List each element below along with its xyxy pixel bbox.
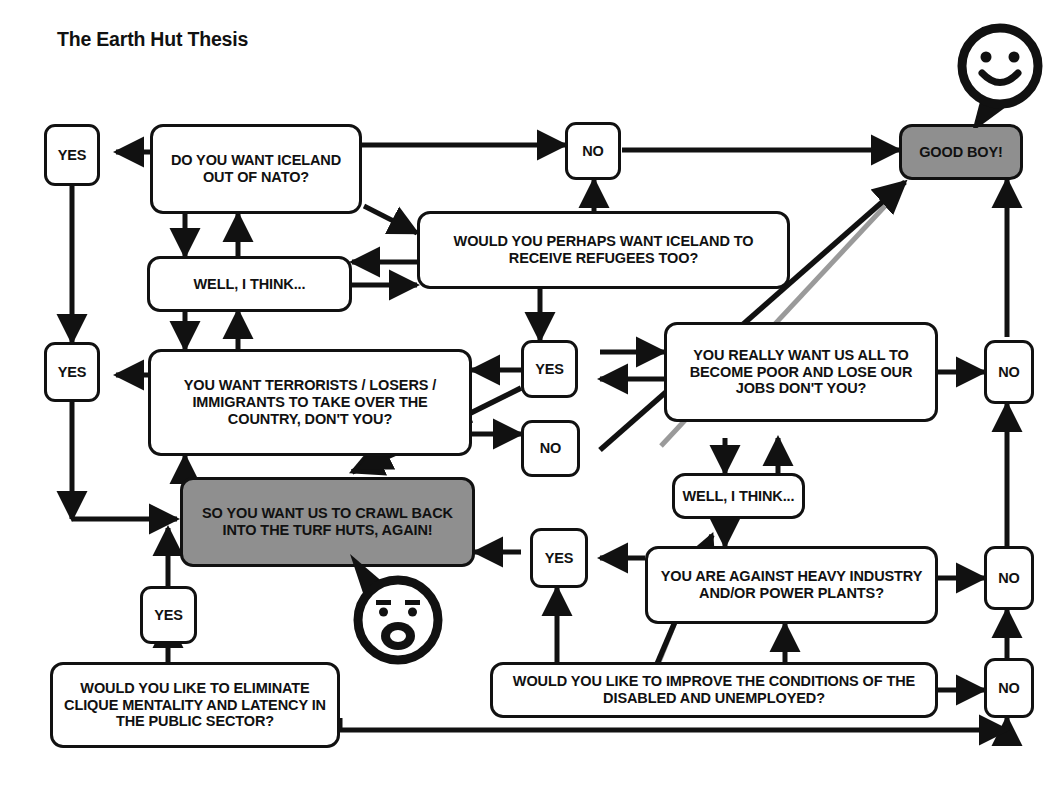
diagram-canvas: The Earth Hut Thesis [0,0,1059,805]
happy-face-icon [944,16,1056,128]
answer-no-right-lower[interactable]: NO [984,658,1034,718]
answer-no-center[interactable]: NO [521,420,580,477]
answer-yes-bottom-left[interactable]: YES [140,586,197,644]
answer-no-right-upper[interactable]: NO [984,340,1034,404]
answer-yes-center[interactable]: YES [521,340,578,398]
question-poor-jobs[interactable]: YOU REALLY WANT US ALL TO BECOME POOR AN… [664,322,938,422]
shocked-face-icon [336,548,452,672]
question-nato[interactable]: DO YOU WANT ICELAND OUT OF NATO? [150,124,362,214]
question-disabled-unemployed[interactable]: WOULD YOU LIKE TO IMPROVE THE CONDITIONS… [490,662,938,718]
hedge-well-i-think-right[interactable]: WELL, I THINK... [672,473,805,519]
question-heavy-industry[interactable]: YOU ARE AGAINST HEAVY INDUSTRY AND/OR PO… [645,546,938,624]
hedge-well-i-think-top[interactable]: WELL, I THINK... [147,256,352,312]
answer-yes-top-left[interactable]: YES [44,124,100,186]
answer-no-top[interactable]: NO [565,122,621,180]
question-terrorists[interactable]: YOU WANT TERRORISTS / LOSERS / IMMIGRANT… [148,349,472,456]
answer-yes-mid-left[interactable]: YES [44,342,100,402]
answer-no-right-mid[interactable]: NO [984,546,1034,610]
answer-yes-lower[interactable]: YES [530,528,588,588]
verdict-good-boy[interactable]: GOOD BOY! [899,124,1023,180]
question-clique-mentality[interactable]: WOULD YOU LIKE TO ELIMINATE CLIQUE MENTA… [50,662,340,748]
question-refugees[interactable]: WOULD YOU PERHAPS WANT ICELAND TO RECEIV… [417,211,790,289]
